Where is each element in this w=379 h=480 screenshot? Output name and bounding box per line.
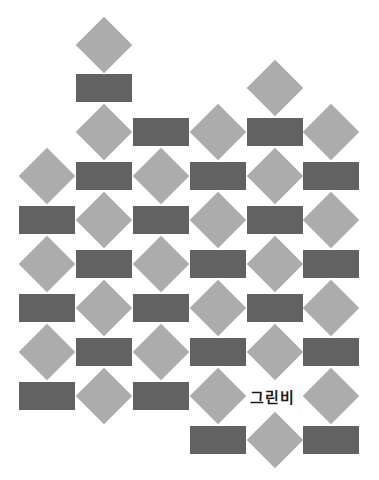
light-diamond-tile <box>190 192 247 249</box>
dark-rectangle-tile <box>303 162 359 190</box>
light-diamond-tile <box>19 148 76 205</box>
light-diamond-tile <box>247 148 304 205</box>
dark-rectangle-tile <box>190 426 246 454</box>
dark-rectangle-tile <box>133 294 189 322</box>
publisher-logo-text: 그린비 <box>250 386 295 407</box>
pattern-canvas <box>0 0 379 480</box>
light-diamond-tile <box>247 412 304 469</box>
dark-rectangle-tile <box>247 118 303 146</box>
dark-rectangle-tile <box>76 338 132 366</box>
light-diamond-tile <box>76 368 133 425</box>
dark-rectangle-tile <box>76 250 132 278</box>
light-diamond-tile <box>76 17 133 74</box>
dark-rectangle-tile <box>133 206 189 234</box>
light-diamond-tile <box>303 104 360 161</box>
light-diamond-tile <box>19 324 76 381</box>
dark-rectangle-tile <box>19 382 75 410</box>
dark-rectangle-tile <box>303 250 359 278</box>
light-diamond-tile <box>303 368 360 425</box>
dark-rectangle-tile <box>303 338 359 366</box>
light-diamond-tile <box>190 104 247 161</box>
light-diamond-tile <box>76 104 133 161</box>
light-diamond-tile <box>76 192 133 249</box>
dark-rectangle-tile <box>19 206 75 234</box>
light-diamond-tile <box>247 324 304 381</box>
dark-rectangle-tile <box>190 338 246 366</box>
light-diamond-tile <box>19 236 76 293</box>
dark-rectangle-tile <box>133 118 189 146</box>
dark-rectangle-tile <box>247 206 303 234</box>
light-diamond-tile <box>190 368 247 425</box>
dark-rectangle-tile <box>190 162 246 190</box>
dark-rectangle-tile <box>76 74 132 102</box>
light-diamond-tile <box>133 236 190 293</box>
light-diamond-tile <box>190 280 247 337</box>
light-diamond-tile <box>247 60 304 117</box>
light-diamond-tile <box>133 148 190 205</box>
dark-rectangle-tile <box>247 294 303 322</box>
light-diamond-tile <box>303 280 360 337</box>
dark-rectangle-tile <box>133 382 189 410</box>
light-diamond-tile <box>303 192 360 249</box>
dark-rectangle-tile <box>303 426 359 454</box>
light-diamond-tile <box>133 324 190 381</box>
light-diamond-tile <box>76 280 133 337</box>
dark-rectangle-tile <box>76 162 132 190</box>
light-diamond-tile <box>247 236 304 293</box>
dark-rectangle-tile <box>19 294 75 322</box>
dark-rectangle-tile <box>190 250 246 278</box>
